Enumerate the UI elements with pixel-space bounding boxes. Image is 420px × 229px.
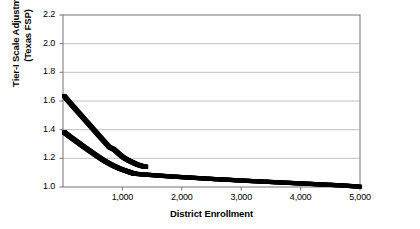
data-marker	[358, 185, 362, 189]
series-upper-adjustment	[62, 94, 148, 169]
chart-figure: Tier-I Scale Adjustment (Texas FSP) Dist…	[0, 0, 420, 229]
plot-area	[0, 0, 420, 229]
series-tail-adjustment	[133, 172, 362, 189]
data-marker	[144, 165, 148, 169]
